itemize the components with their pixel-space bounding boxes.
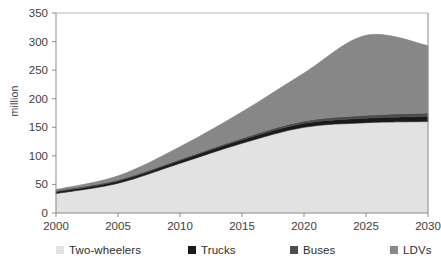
y-tick-label: 0 [42,207,48,219]
legend-label-ldvs: LDVs [403,244,432,256]
plot-area: 0501001502002503003502000200520102015202… [0,0,441,236]
x-tick-label: 2000 [43,220,69,232]
legend-item-buses[interactable]: Buses [290,240,335,260]
legend-swatch-buses [290,246,298,254]
legend-item-ldvs[interactable]: LDVs [390,240,432,260]
legend-label-trucks: Trucks [201,244,236,256]
y-tick-label: 50 [35,178,48,190]
legend-item-trucks[interactable]: Trucks [188,240,236,260]
y-tick-label: 350 [29,7,48,19]
legend-swatch-trucks [188,246,196,254]
x-tick-label: 2015 [229,220,255,232]
x-tick-label: 2020 [291,220,317,232]
stacked-area-chart: 0501001502002503003502000200520102015202… [0,0,441,236]
chart-legend: Two-wheelers Trucks Buses LDVs [0,240,441,266]
legend-label-buses: Buses [303,244,335,256]
y-tick-label: 300 [29,36,48,48]
x-tick-label: 2005 [105,220,131,232]
y-tick-label: 200 [29,93,48,105]
y-tick-label: 250 [29,64,48,76]
x-tick-label: 2025 [353,220,379,232]
legend-swatch-two-wheelers [56,246,64,254]
legend-item-two-wheelers[interactable]: Two-wheelers [56,240,141,260]
y-tick-label: 150 [29,121,48,133]
x-tick-label: 2010 [167,220,193,232]
legend-swatch-ldvs [390,246,398,254]
y-tick-label: 100 [29,150,48,162]
legend-label-two-wheelers: Two-wheelers [69,244,141,256]
y-axis-title: million [8,71,20,131]
x-tick-label: 2030 [415,220,441,232]
chart-figure: 0501001502002503003502000200520102015202… [0,0,441,266]
